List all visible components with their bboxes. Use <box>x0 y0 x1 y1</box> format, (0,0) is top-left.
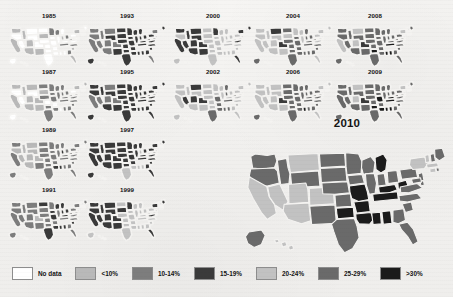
state-hi <box>346 61 354 65</box>
state-hi <box>20 175 28 179</box>
state-ar <box>354 200 370 213</box>
legend-label: <10% <box>101 270 118 277</box>
state-az <box>188 103 199 111</box>
state-ak <box>173 58 181 65</box>
map-year-label: 2009 <box>334 68 416 76</box>
state-tn <box>137 157 147 161</box>
state-ct <box>430 168 436 173</box>
state-ct <box>408 89 410 91</box>
map-year-label: 1985 <box>8 12 90 20</box>
state-me <box>162 82 166 87</box>
state-mn <box>346 153 362 175</box>
state-ak <box>9 172 17 179</box>
state-ut <box>270 39 278 47</box>
state-tx <box>207 109 218 123</box>
state-nc <box>233 99 242 102</box>
state-hi <box>98 117 106 121</box>
state-ut <box>26 213 34 221</box>
state-ut <box>104 213 112 221</box>
state-tn <box>373 192 399 202</box>
state-il <box>382 36 386 44</box>
state-la <box>356 213 374 225</box>
state-hi <box>20 61 28 65</box>
state-hi <box>184 61 192 65</box>
state-fl <box>147 229 155 238</box>
state-az <box>24 103 35 111</box>
legend-label: No data <box>38 270 61 277</box>
state-nc <box>69 99 78 102</box>
state-nc <box>147 157 156 160</box>
state-tx <box>43 227 54 241</box>
state-al <box>389 50 393 55</box>
state-al <box>141 106 145 111</box>
state-mi <box>60 142 65 149</box>
state-tn <box>385 43 395 47</box>
state-il <box>300 92 304 100</box>
map-year-label: 1991 <box>8 186 90 194</box>
map-1987: 1987 <box>8 68 90 128</box>
state-nc <box>147 217 156 220</box>
state-tx <box>121 167 132 181</box>
state-tx <box>43 109 54 123</box>
state-ak <box>253 58 261 65</box>
map-year-label: 1993 <box>86 12 168 20</box>
state-hi <box>98 175 106 179</box>
state-nc <box>69 43 78 46</box>
us-map-svg <box>86 194 168 246</box>
state-tn <box>137 99 147 103</box>
legend-item: 15-19% <box>194 267 242 280</box>
state-mi <box>375 154 387 173</box>
state-ga <box>393 209 406 224</box>
state-mn <box>212 83 218 92</box>
state-mo <box>349 184 368 201</box>
state-ut <box>26 153 34 161</box>
state-az <box>350 103 361 111</box>
state-tn <box>59 99 69 103</box>
state-mn <box>48 27 54 36</box>
state-ms <box>303 107 307 112</box>
state-tx <box>121 53 132 67</box>
state-mn <box>126 201 132 210</box>
state-mn <box>212 27 218 36</box>
legend-item: >30% <box>380 267 423 280</box>
state-ut <box>270 95 278 103</box>
state-nc <box>69 217 78 220</box>
state-mi <box>224 28 229 35</box>
state-me <box>162 26 166 31</box>
state-tn <box>223 99 233 103</box>
us-map-svg <box>172 20 254 72</box>
state-tn <box>137 217 147 221</box>
state-nc <box>69 157 78 160</box>
legend: No data<10%10-14%15-19%20-24%25-29%>30% <box>0 258 453 288</box>
state-fl <box>69 169 77 178</box>
state-ms <box>137 165 141 170</box>
state-tx <box>43 53 54 67</box>
state-wi <box>362 156 376 174</box>
state-ms <box>59 107 63 112</box>
state-ct <box>408 33 410 35</box>
us-map-svg <box>252 20 334 72</box>
state-me <box>410 26 414 31</box>
state-ak <box>335 58 343 65</box>
state-ct <box>82 89 84 91</box>
us-map-svg <box>8 134 90 186</box>
state-md <box>152 151 156 153</box>
state-nc <box>313 99 322 102</box>
map-year-label: 2010 <box>243 116 451 130</box>
map-year-label: 2002 <box>172 68 254 76</box>
state-mi <box>386 28 391 35</box>
state-ut <box>104 95 112 103</box>
state-hi <box>98 235 106 239</box>
state-ct <box>326 89 328 91</box>
state-tx <box>121 227 132 241</box>
state-fl <box>147 169 155 178</box>
state-ms <box>385 51 389 56</box>
state-ct <box>82 207 84 209</box>
state-nd <box>319 153 345 168</box>
legend-label: 25-29% <box>344 270 366 277</box>
map-2004: 2004 <box>252 12 334 72</box>
state-mi <box>60 28 65 35</box>
state-mi <box>60 84 65 91</box>
state-ct <box>326 33 328 35</box>
map-year-label: 2006 <box>252 68 334 76</box>
